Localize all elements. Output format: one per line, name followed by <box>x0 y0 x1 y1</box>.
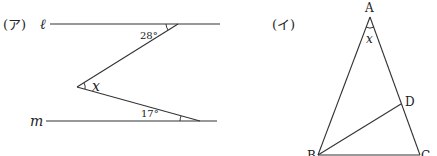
figure-canvas: (ア) ℓ m 28° 17° x (イ) A B C D x <box>0 0 437 156</box>
side-ac <box>370 17 420 155</box>
angle-label-x: x <box>366 32 373 46</box>
figure-b: (イ) A B C D x <box>272 1 430 156</box>
figure-a: (ア) ℓ m 28° 17° x <box>3 16 220 129</box>
angle-label-17: 17° <box>141 108 159 119</box>
angle-arc-x <box>84 83 85 89</box>
side-ab <box>318 17 370 155</box>
angle-arc-17 <box>180 116 181 121</box>
angle-arc-28 <box>166 24 168 30</box>
angle-arc-a <box>366 27 374 28</box>
segment-bd <box>318 104 401 155</box>
line-l-label: ℓ <box>40 16 46 32</box>
vertex-a-label: A <box>364 1 374 15</box>
line-m-label: m <box>30 113 43 129</box>
vertex-c-label: C <box>421 149 430 156</box>
angle-label-x: x <box>92 78 100 94</box>
vertex-d-label: D <box>405 95 415 109</box>
figure-a-label: (ア) <box>3 17 26 32</box>
angle-label-28: 28° <box>140 30 158 41</box>
vertex-b-label: B <box>307 149 316 156</box>
figure-b-label: (イ) <box>272 17 295 32</box>
